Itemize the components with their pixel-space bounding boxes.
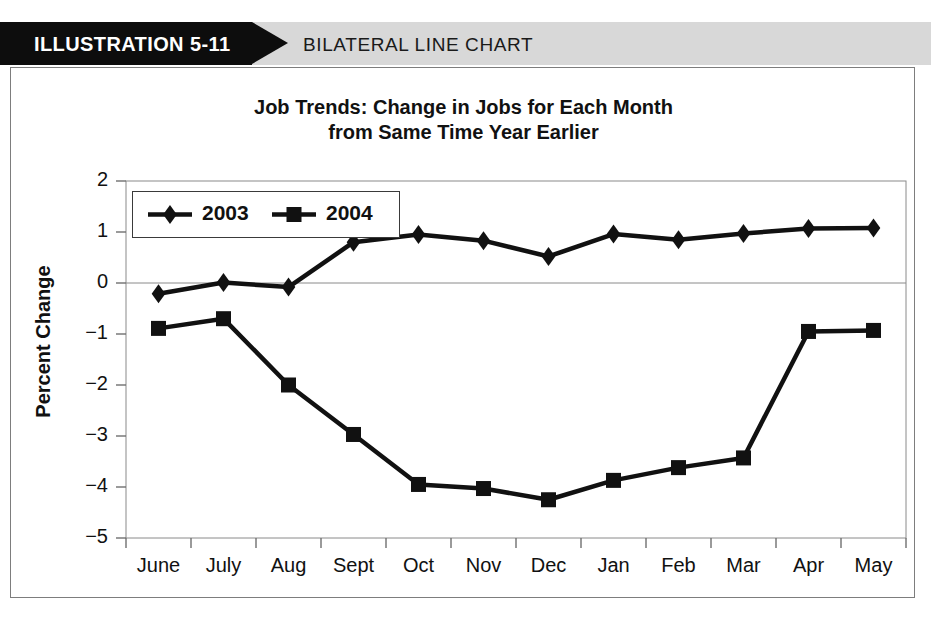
data-point-2003 [282,278,296,297]
series-line-2004 [159,319,874,500]
y-axis-title: Percent Change [32,232,55,452]
data-point-2003 [477,231,491,250]
data-point-2004 [801,324,816,339]
chart-plot [11,68,916,599]
y-axis-tick-label: 1 [62,219,108,242]
data-point-2004 [541,492,556,507]
x-axis-tick-label-nov: Nov [451,554,516,577]
plot-area-wrapper: Percent Change 210−1−2−3−4−5JuneJulyAugS… [11,68,916,599]
data-point-2003 [607,225,621,244]
x-axis-tick-label-june: June [126,554,191,577]
data-point-2003 [802,219,816,238]
data-point-2004 [346,427,361,442]
illustration-number-label: ILLUSTRATION 5-11 [34,33,230,56]
data-point-2003 [152,284,166,303]
data-point-2004 [216,311,231,326]
data-point-2004 [736,450,751,465]
x-axis-tick-label-dec: Dec [516,554,581,577]
data-point-2003 [542,247,556,266]
data-point-2004 [281,378,296,393]
illustration-banner: ILLUSTRATION 5-11 BILATERAL LINE CHART [0,22,931,65]
data-point-2004 [151,321,166,336]
x-axis-tick-label-july: July [191,554,256,577]
y-axis-tick-label: −1 [62,321,108,344]
data-point-2004 [476,481,491,496]
x-axis-tick-label-mar: Mar [711,554,776,577]
illustration-subtitle: BILATERAL LINE CHART [303,34,533,56]
x-axis-tick-label-feb: Feb [646,554,711,577]
y-axis-tick-label: 2 [62,168,108,191]
legend-label-2004: 2004 [326,201,373,225]
data-point-2003 [217,273,231,292]
x-axis-tick-label-oct: Oct [386,554,451,577]
legend-label-2003: 2003 [202,201,249,225]
y-axis-tick-label: −4 [62,474,108,497]
data-point-2004 [671,460,686,475]
data-point-2004 [866,323,881,338]
data-point-2003 [412,225,426,244]
data-point-2004 [411,477,426,492]
data-point-2003 [672,230,686,249]
x-axis-tick-label-sept: Sept [321,554,386,577]
y-axis-tick-label: −5 [62,525,108,548]
banner-arrow-shape [252,22,288,64]
x-axis-tick-label-aug: Aug [256,554,321,577]
y-axis-tick-label: −2 [62,372,108,395]
y-axis-tick-label: −3 [62,423,108,446]
figure-frame: Job Trends: Change in Jobs for Each Mont… [10,67,915,598]
x-axis-tick-label-may: May [841,554,906,577]
x-axis-tick-label-apr: Apr [776,554,841,577]
y-axis-tick-label: 0 [62,270,108,293]
data-point-2004 [606,473,621,488]
data-point-2003 [737,224,751,243]
x-axis-tick-label-jan: Jan [581,554,646,577]
data-point-2003 [867,218,881,237]
